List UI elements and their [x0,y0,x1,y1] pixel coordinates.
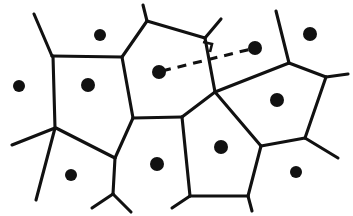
cell-edge [133,117,182,118]
cell-edge [53,56,55,128]
site-dot [248,41,262,55]
voronoi-diagram-figure [0,0,353,216]
site-dot [290,166,302,178]
site-dot [152,65,166,79]
cell-edge [113,158,115,194]
site-dot [303,27,317,41]
site-dot [65,169,77,181]
site-dot [81,78,95,92]
voronoi-diagram-canvas [0,0,353,216]
cell-edge [52,56,122,57]
site-dot [214,140,228,154]
site-dot [94,29,106,41]
site-dot [150,157,164,171]
site-dot [270,93,284,107]
site-dot [13,80,25,92]
